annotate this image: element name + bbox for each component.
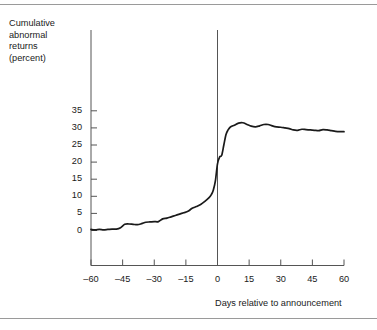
x-tick-label: 0 (203, 274, 233, 284)
figure-container: Cumulative abnormal returns (percent) Da… (0, 0, 377, 330)
x-tick-label: –30 (139, 274, 169, 284)
x-tick-label: 45 (297, 274, 327, 284)
y-tick-label: 15 (56, 173, 82, 183)
y-tick-label: 0 (56, 225, 82, 235)
x-tick-label: 15 (234, 274, 264, 284)
y-tick-label: 35 (56, 105, 82, 115)
x-tick-label: –45 (108, 274, 138, 284)
y-tick-label: 10 (56, 190, 82, 200)
x-tick-label: 30 (266, 274, 296, 284)
y-tick-label: 5 (56, 207, 82, 217)
y-tick-label: 30 (56, 122, 82, 132)
x-tick-label: –60 (76, 274, 106, 284)
y-tick-marks (91, 111, 97, 231)
x-tick-label: –15 (171, 274, 201, 284)
y-tick-label: 25 (56, 139, 82, 149)
x-tick-label: 60 (329, 274, 359, 284)
y-tick-label: 20 (56, 156, 82, 166)
